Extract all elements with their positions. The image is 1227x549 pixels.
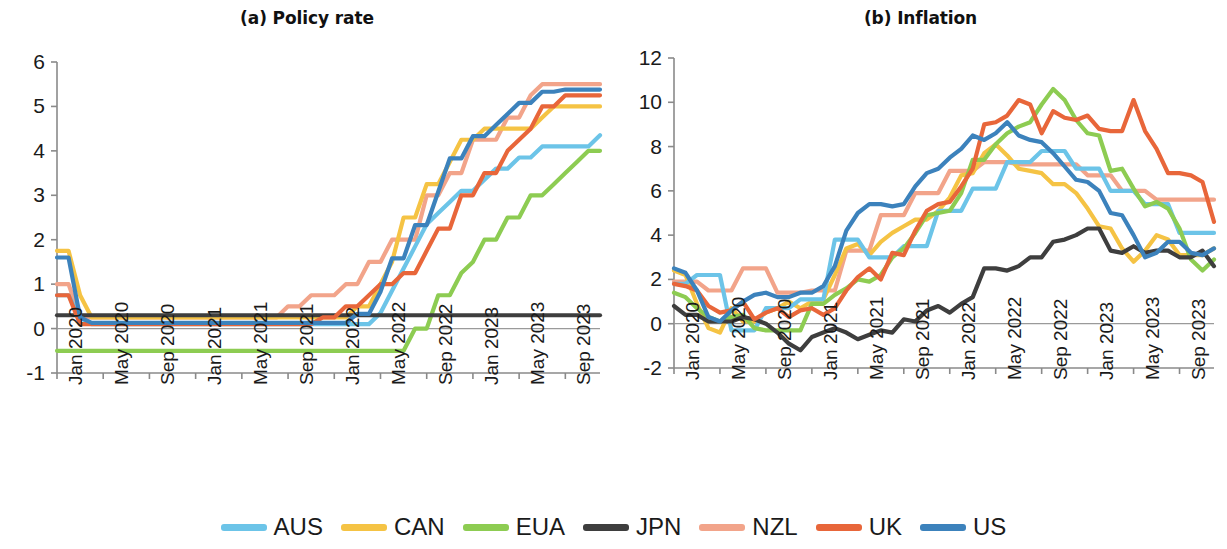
y-axis-tick-label: 10 [614, 90, 662, 114]
legend-item-us[interactable]: US [920, 513, 1006, 541]
legend-item-eua[interactable]: EUA [463, 513, 565, 541]
legend-item-jpn[interactable]: JPN [583, 513, 681, 541]
y-axis-tick-label: -1 [0, 361, 45, 385]
x-axis-tick-label: Sep 2023 [1188, 299, 1210, 380]
legend-label: US [973, 513, 1006, 541]
x-axis-tick-label: Sep 2020 [774, 299, 796, 380]
legend-label: JPN [636, 513, 681, 541]
legend-item-can[interactable]: CAN [341, 513, 445, 541]
x-axis-tick-label: May 2021 [866, 297, 888, 380]
y-axis-tick-label: 4 [0, 139, 45, 163]
legend-label: UK [869, 513, 902, 541]
figure-container: (a) Policy rate -10123456Jan 2020May 202… [0, 0, 1227, 549]
x-axis-tick-label: Jan 2021 [204, 307, 226, 385]
x-axis-tick-label: Jan 2021 [820, 302, 842, 380]
x-axis-tick-label: Jan 2023 [1096, 302, 1118, 380]
x-axis-tick-label: May 2023 [1142, 297, 1164, 380]
x-axis-tick-label: May 2020 [728, 297, 750, 380]
x-axis-tick-label: Sep 2023 [573, 304, 595, 385]
legend-item-aus[interactable]: AUS [221, 513, 323, 541]
legend-swatch-nzl [699, 524, 745, 531]
y-axis-tick-label: 0 [614, 312, 662, 336]
y-axis-tick-label: 0 [0, 317, 45, 341]
series-line-us [674, 122, 1214, 321]
legend-swatch-can [341, 524, 387, 531]
x-axis-tick-label: Jan 2022 [958, 302, 980, 380]
x-axis-tick-label: Sep 2021 [296, 304, 318, 385]
chart-legend: AUSCANEUAJPNNZLUKUS [0, 505, 1227, 549]
legend-swatch-aus [221, 524, 267, 531]
x-axis-tick-label: Sep 2022 [435, 304, 457, 385]
x-axis-tick-label: May 2022 [1004, 297, 1026, 380]
panel-inflation: (b) Inflation -2024681012Jan 2020May 202… [614, 0, 1227, 505]
y-axis-tick-label: 3 [0, 183, 45, 207]
y-axis-tick-label: 6 [614, 179, 662, 203]
x-axis-tick-label: May 2021 [250, 302, 272, 385]
legend-label: NZL [752, 513, 797, 541]
x-axis-tick-label: Sep 2022 [1050, 299, 1072, 380]
x-axis-tick-label: May 2023 [527, 302, 549, 385]
y-axis-tick-label: 5 [0, 94, 45, 118]
legend-label: AUS [274, 513, 323, 541]
x-axis-tick-label: Jan 2020 [65, 307, 87, 385]
y-axis-tick-label: 8 [614, 135, 662, 159]
series-line-nzl [674, 162, 1214, 293]
y-axis-tick-label: 12 [614, 46, 662, 70]
panel-a-plot [0, 0, 614, 505]
panel-b-plot [614, 0, 1227, 505]
legend-item-nzl[interactable]: NZL [699, 513, 797, 541]
x-axis-tick-label: Jan 2022 [342, 307, 364, 385]
x-axis-tick-label: Sep 2020 [157, 304, 179, 385]
legend-swatch-jpn [583, 524, 629, 531]
x-axis-tick-label: May 2022 [388, 302, 410, 385]
y-axis-tick-label: -2 [614, 356, 662, 380]
x-axis-tick-label: Jan 2023 [481, 307, 503, 385]
y-axis-tick-label: 2 [614, 267, 662, 291]
x-axis-tick-label: Sep 2021 [912, 299, 934, 380]
legend-swatch-us [920, 524, 966, 531]
y-axis-tick-label: 2 [0, 228, 45, 252]
y-axis-tick-label: 1 [0, 272, 45, 296]
panel-policy-rate: (a) Policy rate -10123456Jan 2020May 202… [0, 0, 614, 505]
series-line-nzl [57, 84, 600, 317]
legend-swatch-eua [463, 524, 509, 531]
x-axis-tick-label: May 2020 [111, 302, 133, 385]
x-axis-tick-label: Jan 2020 [682, 302, 704, 380]
y-axis-tick-label: 6 [0, 50, 45, 74]
y-axis-tick-label: 4 [614, 223, 662, 247]
legend-label: EUA [516, 513, 565, 541]
series-line-us [57, 90, 600, 323]
legend-label: CAN [394, 513, 445, 541]
legend-item-uk[interactable]: UK [816, 513, 902, 541]
legend-swatch-uk [816, 524, 862, 531]
